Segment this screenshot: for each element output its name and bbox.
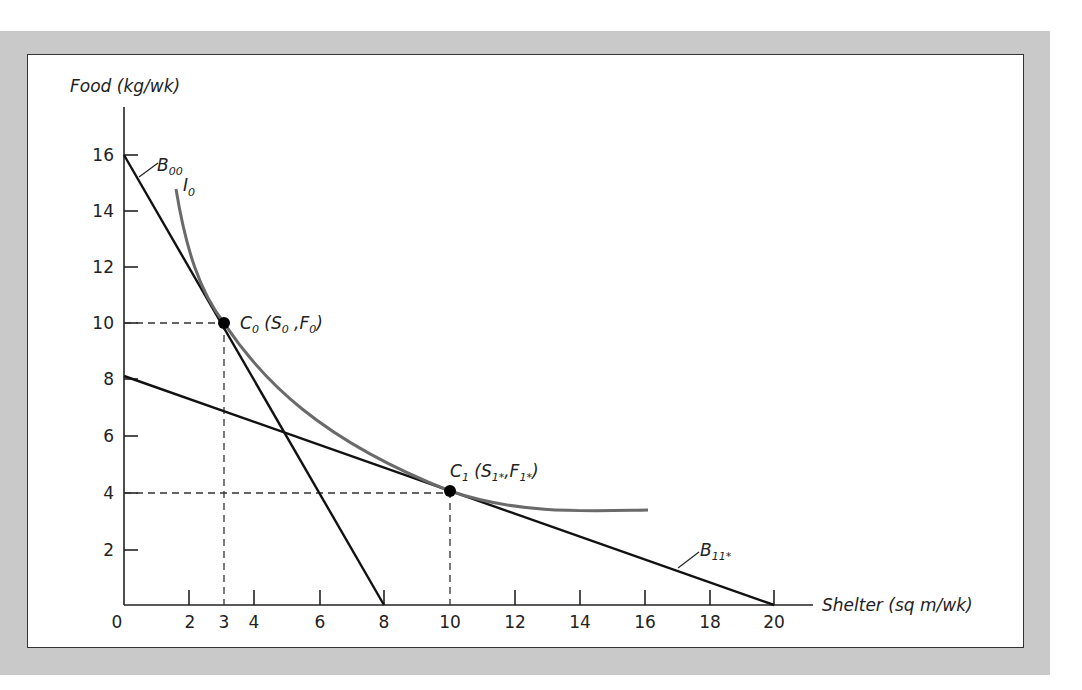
- y-tick-label: 6: [103, 426, 114, 446]
- point-c0: [218, 317, 230, 329]
- c0-mid: ,F: [289, 313, 310, 333]
- c0-main: C: [240, 313, 252, 333]
- y-tick-label: 8: [103, 369, 114, 389]
- y-tick-label: 14: [92, 201, 114, 221]
- b11-leader: [678, 552, 699, 568]
- label-b00: B00: [157, 155, 183, 178]
- x-tick-label: 8: [379, 612, 390, 632]
- label-b11-sub: 11*: [712, 550, 732, 563]
- label-b11-main: B: [700, 540, 712, 560]
- y-tick-label: 10: [92, 313, 114, 333]
- x-tick-label: 2: [185, 612, 196, 632]
- c0-s-sub: 0: [282, 323, 289, 336]
- label-c1: C1 (S1*,F1*): [450, 461, 539, 484]
- c1-s-sub: 1*: [492, 471, 505, 484]
- label-b11: B11*: [700, 540, 732, 563]
- x-tick-label: 20: [763, 612, 785, 632]
- c0-open: (S: [259, 313, 282, 333]
- c1-close: ): [530, 461, 539, 481]
- x-axis-label: Shelter (sq m/wk): [822, 595, 973, 615]
- point-c1: [444, 485, 456, 497]
- b00-leader: [139, 163, 158, 177]
- x-tick-label: 16: [634, 612, 656, 632]
- x-tick-label: 18: [699, 612, 721, 632]
- dashed-guides: [124, 323, 450, 605]
- label-b00-main: B: [157, 155, 169, 175]
- c1-main: C: [450, 461, 462, 481]
- x-tick-label: 3: [219, 612, 230, 632]
- label-b00-sub: 00: [169, 165, 183, 178]
- label-i0: I0: [183, 175, 195, 199]
- c1-open: (S: [469, 461, 492, 481]
- y-tick-label: 16: [92, 145, 114, 165]
- x-tick-labels: 0 2 3 4 6 8 10 12 14 16 18 20: [112, 612, 785, 632]
- x-tick-label: 6: [315, 612, 326, 632]
- y-axis-label: Food (kg/wk): [70, 76, 180, 96]
- label-c0: C0 (S0 ,F0): [240, 313, 323, 336]
- x-tick-label: 10: [439, 612, 461, 632]
- c0-f-sub: 0: [309, 323, 316, 336]
- y-tick-labels: 16 14 12 10 8 6 4 2: [92, 145, 114, 560]
- c1-sub: 1: [462, 471, 469, 484]
- label-i0-sub: 0: [188, 186, 195, 199]
- c1-f-sub: 1*: [519, 471, 532, 484]
- c0-sub: 0: [252, 323, 259, 336]
- x-tick-label: 12: [504, 612, 526, 632]
- x-tick-label: 4: [249, 612, 260, 632]
- y-tick-label: 12: [92, 257, 114, 277]
- c1-mid: ,F: [504, 461, 519, 481]
- chart: Food (kg/wk) Shelter (sq m/wk) 16 14 12 …: [0, 0, 1082, 690]
- y-tick-label: 2: [103, 540, 114, 560]
- budget-line-b00: [124, 155, 384, 605]
- origin-label: 0: [112, 612, 123, 632]
- x-tick-label: 14: [569, 612, 591, 632]
- axes: [124, 107, 813, 605]
- y-tick-label: 4: [103, 483, 114, 503]
- indifference-curve-i0: [176, 189, 648, 511]
- c0-close: ): [314, 313, 323, 333]
